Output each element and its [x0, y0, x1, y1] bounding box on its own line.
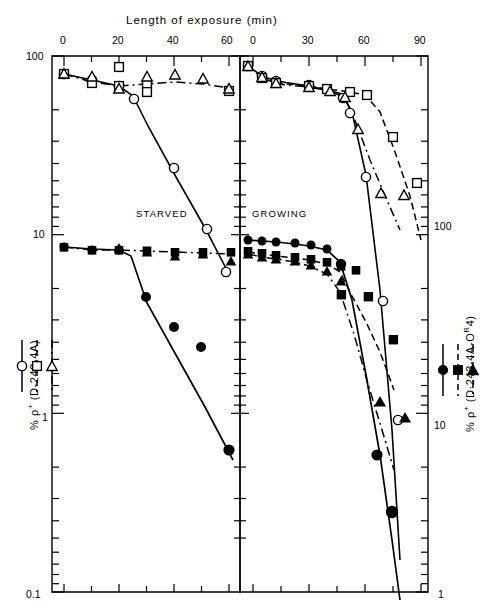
data-point — [386, 506, 398, 518]
data-point — [196, 342, 206, 352]
data-point — [170, 70, 180, 80]
data-point — [413, 179, 422, 188]
data-point — [60, 243, 69, 252]
data-point — [374, 396, 386, 407]
filled-square-icon — [454, 366, 463, 375]
data-point — [198, 74, 208, 84]
data-point — [143, 88, 152, 97]
data-point — [323, 258, 332, 267]
data-point — [389, 335, 398, 344]
data-point — [115, 63, 124, 72]
data-point — [323, 245, 332, 254]
data-point — [345, 108, 354, 117]
data-point — [291, 239, 300, 248]
filled-triangle-icon — [468, 365, 479, 375]
data-point — [244, 236, 253, 245]
data-point — [352, 266, 361, 275]
data-point — [221, 267, 230, 276]
data-point — [223, 444, 234, 455]
open-circle-icon — [17, 361, 26, 370]
plot-svg — [0, 0, 494, 613]
data-point — [378, 296, 387, 305]
starved-open-circle-curve — [64, 74, 229, 274]
data-point — [142, 72, 152, 82]
right-panel-frame — [240, 56, 428, 592]
growing-filled-square-points — [244, 247, 398, 344]
legend-right — [439, 344, 479, 396]
data-point — [169, 163, 178, 172]
legend-left — [17, 340, 57, 392]
data-point — [337, 290, 346, 299]
data-point — [258, 237, 267, 246]
starved-filled-circle-points — [60, 243, 235, 456]
starved-open-circle-points — [59, 69, 230, 276]
data-point — [399, 190, 409, 200]
data-point — [361, 172, 370, 181]
left-panel-frame — [52, 56, 240, 592]
right-yticks — [416, 56, 428, 592]
data-point — [202, 224, 211, 233]
data-point — [272, 238, 281, 247]
data-point — [141, 292, 151, 302]
growing-open-circle-points — [243, 61, 402, 424]
growing-filled-circle-curve — [248, 240, 400, 600]
growing-filled-square-curve — [248, 252, 394, 390]
data-point — [322, 266, 333, 276]
growing-filled-circle-points — [244, 236, 399, 519]
growing-open-circle-curve — [248, 66, 400, 560]
right-panel-xticks — [253, 56, 421, 66]
left-yticks — [52, 56, 64, 592]
data-point — [364, 292, 373, 301]
data-point — [169, 322, 179, 332]
open-square-icon — [33, 362, 42, 371]
bottom-xticks — [64, 584, 421, 592]
data-point — [227, 248, 236, 257]
growing-open-triangle-points — [243, 61, 409, 200]
data-point — [226, 256, 237, 266]
data-point — [307, 241, 316, 250]
data-point — [88, 246, 97, 255]
data-point — [371, 449, 382, 460]
open-triangle-icon — [47, 361, 57, 371]
figure-container: Length of exposure (min) 0 20 40 60 0 30… — [0, 0, 494, 613]
left-panel-xticks — [64, 56, 229, 66]
growing-filled-triangle-points — [243, 249, 411, 423]
data-point — [376, 188, 386, 198]
data-point — [363, 91, 372, 100]
growing-open-triangle-curve — [276, 84, 400, 230]
filled-circle-icon — [439, 366, 448, 375]
growing-filled-triangle-curve — [248, 254, 394, 470]
data-point — [389, 133, 398, 142]
data-point — [129, 94, 138, 103]
starved-filled-circle-curve — [64, 247, 233, 460]
axis-frames — [52, 56, 428, 592]
data-point — [337, 262, 346, 271]
